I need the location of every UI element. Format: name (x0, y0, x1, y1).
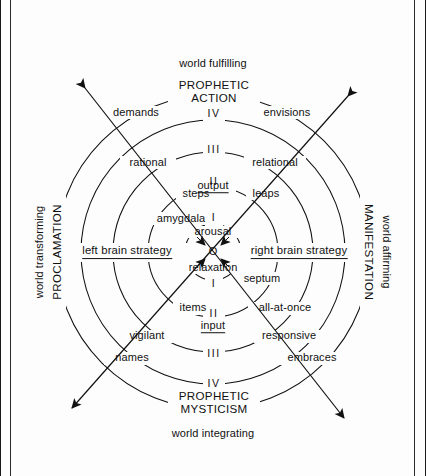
ring-numeral-bottom-iii: III (207, 348, 221, 359)
label-all-at-once: all-at-once (259, 302, 311, 314)
ring-numeral-top-iii: III (207, 144, 221, 155)
label-arousal: arousal (195, 226, 232, 238)
label-manifestation: MANIFESTATION (363, 204, 375, 300)
label-rational: rational (130, 157, 167, 169)
figure-page: world fulfilling world integrating world… (0, 0, 426, 476)
label-names: names (115, 352, 149, 364)
label-world-transforming: world transforming (34, 206, 46, 298)
label-amygdala: amygdala (157, 213, 206, 225)
label-left-brain-strategy: left brain strategy (82, 245, 172, 259)
ring-numeral-bottom-i: I (212, 278, 217, 289)
ring-numeral-bottom-iv: IV (207, 378, 220, 389)
label-relational: relational (252, 157, 298, 169)
label-proclamation: PROCLAMATION (51, 204, 63, 300)
title-prophetic-action-line2: ACTION (191, 92, 237, 104)
ring-numeral-top-iv: IV (207, 108, 220, 119)
ring-numeral-bottom-ii: II (209, 308, 218, 319)
label-vigilant: vigilant (129, 330, 164, 342)
title-prophetic-mysticism-line1: PROPHETIC (179, 390, 249, 402)
label-core-o: O (209, 246, 218, 258)
diagram-stage: world fulfilling world integrating world… (0, 0, 426, 476)
label-items: items (180, 302, 207, 314)
ring-numeral-top-i: I (212, 212, 217, 223)
label-demands: demands (113, 107, 159, 119)
label-responsive: responsive (262, 330, 316, 342)
label-world-integrating: world integrating (172, 428, 254, 440)
label-world-fulfilling: world fulfilling (179, 58, 247, 70)
title-prophetic-action-line1: PROPHETIC (179, 79, 249, 91)
label-world-affirming: world affirming (380, 216, 392, 289)
label-relaxation: relaxation (189, 262, 238, 274)
title-prophetic-mysticism-line2: MYSTICISM (180, 403, 247, 415)
label-input: input (201, 320, 225, 332)
label-leaps: leaps (253, 188, 280, 200)
label-right-brain-strategy: right brain strategy (251, 245, 348, 259)
label-septum: septum (244, 273, 281, 285)
label-embraces: embraces (287, 352, 336, 364)
label-steps: steps (183, 188, 210, 200)
label-envisions: envisions (264, 107, 311, 119)
